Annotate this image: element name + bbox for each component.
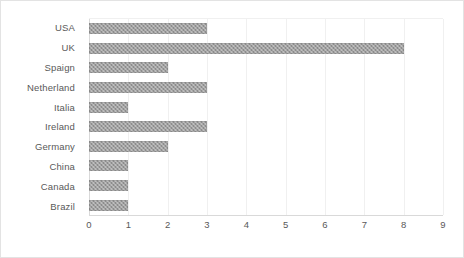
bar-row bbox=[89, 58, 443, 78]
gridline bbox=[443, 19, 444, 215]
category-label: China bbox=[23, 157, 82, 177]
value-tick-label: 9 bbox=[440, 219, 445, 230]
chart-frame: USAUKSpaignNetherlandItaliaIrelandGerman… bbox=[0, 0, 464, 258]
category-label: Ireland bbox=[23, 117, 82, 137]
category-label: Italia bbox=[23, 97, 82, 117]
bar-row bbox=[89, 137, 443, 157]
bar-row bbox=[89, 156, 443, 176]
bar bbox=[89, 141, 168, 152]
bar-row bbox=[89, 39, 443, 59]
value-tick-label: 2 bbox=[165, 219, 170, 230]
bar bbox=[89, 180, 128, 191]
bar bbox=[89, 43, 404, 54]
bar-chart: USAUKSpaignNetherlandItaliaIrelandGerman… bbox=[23, 13, 443, 245]
value-tick-label: 1 bbox=[126, 219, 131, 230]
bar-row bbox=[89, 176, 443, 196]
category-label: UK bbox=[23, 38, 82, 58]
category-axis-labels: USAUKSpaignNetherlandItaliaIrelandGerman… bbox=[23, 18, 82, 216]
bar bbox=[89, 62, 168, 73]
value-tick-label: 7 bbox=[362, 219, 367, 230]
value-tick-label: 6 bbox=[322, 219, 327, 230]
bar-row bbox=[89, 78, 443, 98]
category-label: Germany bbox=[23, 137, 82, 157]
bar-row bbox=[89, 195, 443, 215]
bar bbox=[89, 200, 128, 211]
value-tick-label: 4 bbox=[244, 219, 249, 230]
category-label: Spaign bbox=[23, 58, 82, 78]
value-tick-label: 5 bbox=[283, 219, 288, 230]
category-label: USA bbox=[23, 18, 82, 38]
bar bbox=[89, 23, 207, 34]
bar bbox=[89, 102, 128, 113]
category-label: Brazil bbox=[23, 196, 82, 216]
bar-row bbox=[89, 19, 443, 39]
bar-row bbox=[89, 117, 443, 137]
value-axis-ticks: 0123456789 bbox=[89, 219, 443, 235]
value-tick-label: 3 bbox=[204, 219, 209, 230]
bar bbox=[89, 160, 128, 171]
bar-series bbox=[89, 19, 443, 215]
bar-row bbox=[89, 97, 443, 117]
value-tick-label: 8 bbox=[401, 219, 406, 230]
value-tick-label: 0 bbox=[86, 219, 91, 230]
bar bbox=[89, 121, 207, 132]
category-label: Netherland bbox=[23, 77, 82, 97]
bar bbox=[89, 82, 207, 93]
category-label: Canada bbox=[23, 176, 82, 196]
plot-area bbox=[89, 18, 443, 216]
